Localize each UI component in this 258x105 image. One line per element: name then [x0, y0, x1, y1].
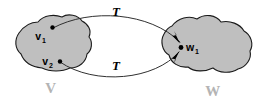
codomain-space-blob: [162, 15, 252, 72]
vector-label-v2: v: [42, 55, 48, 67]
codomain-space-label: W: [205, 83, 221, 99]
linear-transformation-figure: v 1 v 2 w 1 T T V W: [0, 0, 258, 105]
figure-canvas: v 1 v 2 w 1 T T V W: [0, 0, 258, 105]
domain-space-blob: [16, 15, 92, 71]
vector-label-w1: w: [185, 41, 195, 53]
vector-subscript-w1: 1: [195, 48, 199, 55]
mapping-label-bottom: T: [112, 58, 121, 73]
vector-label-v1: v: [35, 30, 41, 42]
vector-subscript-v1: 1: [42, 37, 46, 44]
domain-space-label: V: [45, 80, 56, 96]
mapping-label-top: T: [112, 4, 121, 19]
vector-dot-v1: [50, 25, 54, 29]
vector-dot-w1: [179, 45, 184, 50]
vector-subscript-v2: 2: [49, 62, 53, 69]
vector-dot-v2: [58, 59, 62, 63]
